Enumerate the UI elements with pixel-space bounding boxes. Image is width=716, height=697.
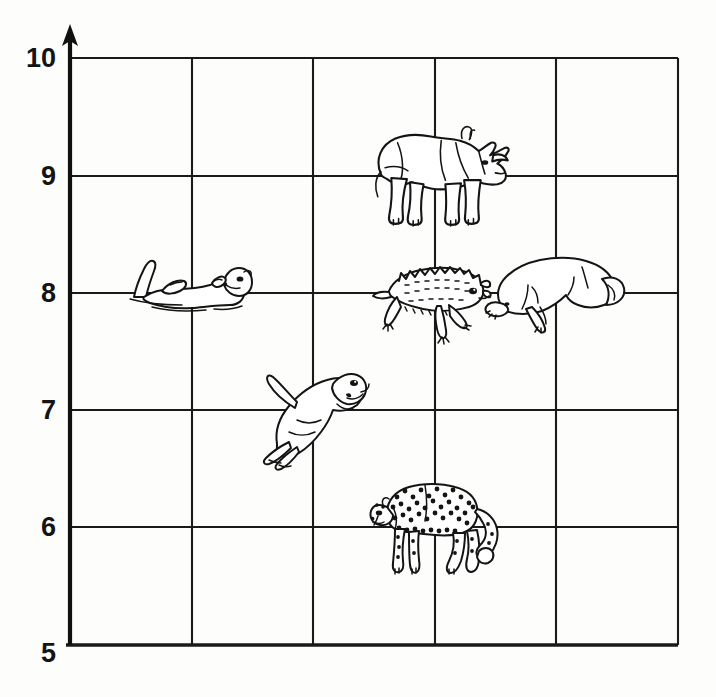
grid-lines <box>66 58 678 645</box>
y-tick-label-6: 6 <box>41 512 56 542</box>
seal-eye <box>350 380 358 386</box>
y-axis-tick-labels: 10 9 8 7 6 5 <box>26 43 56 668</box>
manatee-eye <box>505 302 510 306</box>
sea-otter-eye <box>237 276 244 281</box>
horned-lizard-eye <box>469 288 477 294</box>
y-tick-label-10: 10 <box>26 43 56 73</box>
coordinate-grid-figure: 10 9 8 7 6 5 <box>0 0 716 697</box>
y-tick-label-5: 5 <box>41 638 56 668</box>
rhinoceros-eye <box>482 160 489 165</box>
y-tick-label-9: 9 <box>41 161 56 191</box>
animal-seal <box>264 374 369 470</box>
animal-horned-lizard <box>373 267 491 344</box>
y-tick-label-8: 8 <box>41 278 56 308</box>
animal-manatee <box>485 258 624 333</box>
animal-rhinoceros <box>376 127 509 226</box>
cheetah-eye <box>376 511 382 516</box>
y-axis <box>62 24 78 645</box>
y-tick-label-7: 7 <box>41 395 56 425</box>
worksheet-page: 10 9 8 7 6 5 <box>0 0 716 697</box>
